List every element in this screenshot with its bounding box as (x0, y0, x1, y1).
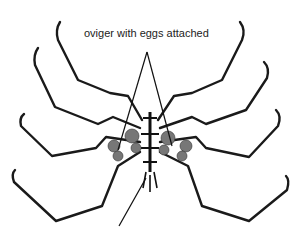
sea-spider-drawing (0, 0, 301, 234)
right-legs (158, 22, 288, 221)
left-legs (13, 22, 142, 221)
body (141, 112, 159, 192)
